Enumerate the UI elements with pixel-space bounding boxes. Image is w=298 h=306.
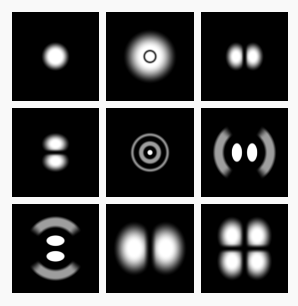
orbital-panel-1: 2s — [106, 12, 193, 101]
orbital-density-map-4 — [106, 108, 193, 197]
orbital-density-map-8 — [201, 204, 288, 293]
orbital-density-map-2 — [201, 12, 288, 101]
orbital-panel-4: 3s — [106, 108, 193, 197]
orbital-panel-5: 3p x — [201, 108, 288, 197]
orbital-panel-7: 3d z2 — [106, 204, 193, 293]
orbital-density-map-6 — [12, 204, 99, 293]
orbital-density-map-3 — [12, 108, 99, 197]
orbital-grid: 1s2s2p x2p z3s3p x3p z3d z23d xz — [12, 12, 288, 293]
orbital-panel-0: 1s — [12, 12, 99, 101]
orbital-panel-8: 3d xz — [201, 204, 288, 293]
orbital-density-map-0 — [12, 12, 99, 101]
orbital-panel-3: 2p z — [12, 108, 99, 197]
orbital-density-map-7 — [106, 204, 193, 293]
figure-root: 1s2s2p x2p z3s3p x3p z3d z23d xz — [0, 0, 298, 306]
orbital-density-map-5 — [201, 108, 288, 197]
orbital-panel-6: 3p z — [12, 204, 99, 293]
orbital-density-map-1 — [106, 12, 193, 101]
orbital-panel-2: 2p x — [201, 12, 288, 101]
